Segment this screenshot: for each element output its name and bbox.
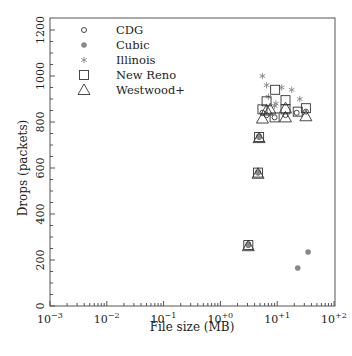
square-marker-icon [271, 85, 280, 94]
star-marker-icon [81, 57, 87, 63]
series-westwood- [242, 102, 312, 251]
star-marker-icon [264, 82, 270, 88]
star-marker-icon [297, 96, 303, 102]
x-tick-label: 10 [37, 313, 51, 326]
x-tick-label: 10 [321, 313, 335, 326]
circle-marker-icon [82, 28, 87, 33]
x-tick-exponent: −3 [51, 311, 63, 320]
scatter-chart: 020040060080010001200 10−310−210−110+010… [0, 0, 352, 356]
plot-frame [50, 18, 335, 306]
legend-label: Cubic [116, 38, 150, 52]
series-illinois [246, 73, 303, 247]
series-cubic [246, 134, 311, 271]
triangle-marker-icon [78, 84, 90, 95]
dot-marker-icon [81, 42, 87, 48]
y-tick-label: 1200 [34, 16, 47, 44]
dot-marker-icon [305, 249, 311, 255]
square-marker-icon [281, 96, 290, 105]
y-tick-label: 200 [34, 250, 47, 271]
x-tick-exponent: −1 [165, 311, 177, 320]
square-marker-icon [80, 71, 89, 80]
x-tick-label: 10 [264, 313, 278, 326]
y-tick-label: 800 [34, 112, 47, 133]
legend-label: Westwood+ [116, 83, 185, 97]
y-tick-label: 600 [34, 158, 47, 179]
data-points [242, 73, 312, 271]
circle-marker-icon [272, 115, 277, 120]
series-new-reno [244, 85, 311, 249]
x-tick-exponent: −2 [108, 311, 120, 320]
legend-label: New Reno [116, 68, 176, 82]
y-tick-label: 400 [34, 204, 47, 225]
star-marker-icon [289, 87, 295, 93]
x-tick-exponent: +1 [278, 311, 290, 320]
y-axis-label: Drops (packets) [16, 120, 30, 217]
legend: CDGCubicIllinoisNew RenoWestwood+ [78, 23, 185, 97]
y-axis-ticks: 020040060080010001200 [34, 16, 55, 310]
x-axis-label: File size (MB) [150, 320, 235, 334]
square-marker-icon [301, 104, 310, 113]
axes-box [50, 18, 335, 306]
y-tick-label: 1000 [34, 62, 47, 90]
legend-label: Illinois [116, 53, 156, 67]
x-tick-exponent: +0 [221, 311, 233, 320]
y-tick-label: 0 [34, 303, 47, 310]
star-marker-icon [260, 73, 266, 79]
legend-label: CDG [116, 23, 143, 37]
dot-marker-icon [295, 265, 301, 271]
circle-marker-icon [294, 110, 299, 115]
x-tick-exponent: +2 [335, 311, 347, 320]
x-tick-label: 10 [94, 313, 108, 326]
